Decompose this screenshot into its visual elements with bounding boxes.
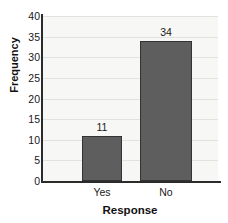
y-axis-tick-label: 0: [16, 175, 40, 187]
y-axis-tick-label: 30: [16, 51, 40, 63]
bar-value-label: 11: [77, 121, 127, 134]
bar-yes[interactable]: [82, 136, 122, 181]
y-axis-tick-label: 15: [16, 113, 40, 125]
y-axis-tick-label: 20: [16, 93, 40, 105]
bar-no[interactable]: [140, 41, 192, 181]
bar-chart-figure: Frequency 4035302520151050 1134 YesNo Re…: [0, 0, 228, 223]
y-axis-tick-label: 35: [16, 31, 40, 43]
x-axis-spine: [41, 181, 221, 183]
y-axis-tick-labels: 4035302520151050: [16, 10, 40, 187]
y-axis-tick-label: 10: [16, 134, 40, 146]
y-axis-tick-label: 5: [16, 154, 40, 166]
gridline: [42, 16, 218, 17]
y-axis-spine: [41, 14, 43, 183]
y-axis-tick-label: 40: [16, 10, 40, 22]
x-axis-tick-label: Yes: [72, 186, 132, 199]
y-axis-tick-label: 25: [16, 72, 40, 84]
x-axis-tick-label: No: [136, 186, 196, 199]
bar-value-label: 34: [141, 26, 191, 39]
gridline: [42, 37, 218, 38]
x-axis-title: Response: [42, 203, 218, 217]
